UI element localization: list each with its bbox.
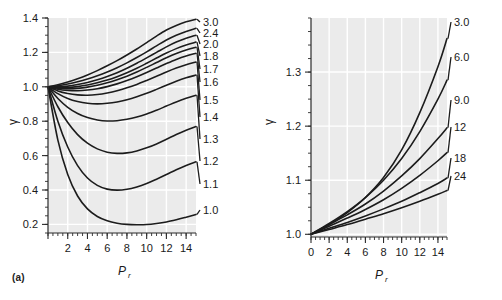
plot-area-background [311,18,447,237]
chart-b-svg: 3.06.09.0121824024681012141.01.11.21.3Pr… [251,0,502,300]
curve-label: 1.5 [203,94,218,106]
x-axis-tick-label: 4 [344,246,350,258]
curve-label: 12 [454,121,466,133]
x-axis-tick-label: 12 [414,246,426,258]
curve-label-leader [197,28,200,33]
x-axis-tick-label: 6 [362,246,368,258]
curve-label: 1.3 [203,133,218,145]
x-axis-tick-label: 8 [124,242,130,254]
x-axis-tick-label: 2 [65,242,71,254]
y-axis-tick-label: 0.4 [23,184,38,196]
x-axis-title-subscript: r [128,271,131,280]
curve-label-leader [448,176,451,190]
y-axis-tick-label: 1.4 [23,12,38,24]
panel-caption-a: (a) [12,272,25,283]
y-axis-tick-label: 1.1 [286,174,301,186]
x-axis-tick-label: 8 [380,246,386,258]
x-axis-tick-label: 10 [396,246,408,258]
y-axis-tick-label: 0.2 [23,218,38,230]
figure-container: 3.02.42.01.81.71.61.51.41.31.21.11.02468… [0,0,502,300]
curve-label: 1.4 [203,111,218,123]
y-axis-tick-label: 0.8 [23,115,38,127]
x-axis-tick-label: 14 [432,246,444,258]
curve-label-leader [197,162,200,184]
y-axis-tick-label: 0.6 [23,150,38,162]
chart-panel-b: 3.06.09.0121824024681012141.01.11.21.3Pr… [251,0,502,300]
curve-label: 1.8 [203,50,218,62]
x-axis-title: Pr [375,268,388,284]
curve-label: 9.0 [454,94,469,106]
x-axis-title: Pr [118,264,131,280]
x-axis-tick-label: 14 [180,242,192,254]
curve-label-leader [448,127,451,153]
y-axis-title: γ [6,119,20,125]
x-axis-title-main: P [118,264,126,278]
curve-label: 3.0 [454,16,469,28]
curve-label: 1.7 [203,63,218,75]
y-axis-tick-label: 1.0 [286,228,301,240]
x-axis-tick-label: 10 [141,242,153,254]
curve-label: 1.1 [203,178,218,190]
curve-label-leader [448,57,451,80]
curve-label-leader [448,22,451,39]
curve-label-leader [197,19,200,22]
x-axis-tick-label: 12 [160,242,172,254]
x-axis-tick-label: 0 [308,246,314,258]
chart-panel-a: 3.02.42.01.81.71.61.51.41.31.21.11.02468… [0,0,251,300]
x-axis-tick-label: 4 [84,242,90,254]
y-axis-title: γ [262,119,276,125]
y-axis-tick-label: 1.0 [23,81,38,93]
y-axis-tick-label: 1.2 [23,46,38,58]
curve-label-leader [448,158,451,178]
x-axis-title-subscript: r [385,275,388,284]
chart-a-svg: 3.02.42.01.81.71.61.51.41.31.21.11.02468… [0,0,251,300]
x-axis-tick-label: 2 [326,246,332,258]
y-axis-tick-label: 1.3 [286,66,301,78]
y-axis-tick-label: 1.2 [286,120,301,132]
curve-label: 1.2 [203,155,218,167]
x-axis-tick-label: 6 [104,242,110,254]
curve-label-leader [197,210,200,214]
x-axis-title-main: P [375,268,383,282]
curve-label: 1.6 [203,76,218,88]
curve-label: 6.0 [454,51,469,63]
curve-label: 2.0 [203,38,218,50]
curve-label-leader [448,100,451,128]
curve-label: 18 [454,152,466,164]
curve-label: 1.0 [203,204,218,216]
curve-label: 24 [454,170,466,182]
